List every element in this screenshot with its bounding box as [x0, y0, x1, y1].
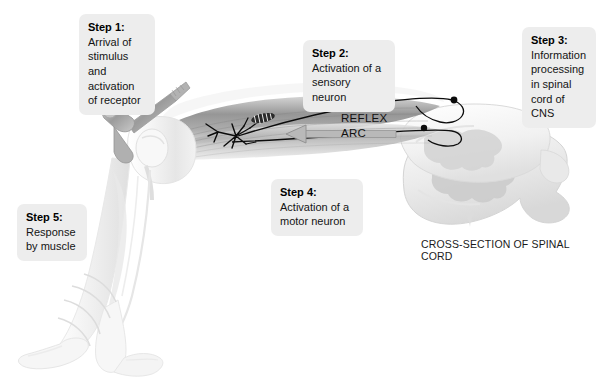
step-5-heading: Step 5: [26, 210, 78, 225]
step-1-heading: Step 1: [88, 20, 146, 35]
step-5-body: Response by muscle [26, 225, 78, 254]
step-4-heading: Step 4: [280, 185, 354, 200]
foot-kicking [95, 300, 162, 376]
callout-step-5: Step 5: Response by muscle [17, 204, 87, 261]
callout-step-3: Step 3: Information processing in spinal… [522, 27, 596, 128]
callout-step-1: Step 1: Arrival of stimulus and activati… [79, 14, 155, 115]
foot-resting [18, 338, 88, 369]
step-2-heading: Step 2: [312, 46, 386, 61]
reflex-arc-label: REFLEX ARC [341, 111, 388, 140]
callout-step-2: Step 2: Activation of a sensory neuron [303, 40, 395, 112]
callout-step-4: Step 4: Activation of a motor neuron [271, 179, 363, 236]
step-4-body: Activation of a motor neuron [280, 200, 354, 229]
step-1-body: Arrival of stimulus and activation of re… [88, 35, 146, 108]
thigh-muscle [160, 83, 444, 160]
motor-neuron-cell-body [421, 125, 427, 131]
cross-section-caption: CROSS-SECTION OF SPINAL CORD [421, 238, 598, 262]
reflex-arc-diagram: Step 1: Arrival of stimulus and activati… [0, 0, 598, 384]
step-3-heading: Step 3: [531, 33, 587, 48]
dorsal-root-ganglion [451, 97, 458, 104]
step-2-body: Activation of a sensory neuron [312, 61, 386, 105]
step-3-body: Information processing in spinal cord of… [531, 48, 587, 121]
